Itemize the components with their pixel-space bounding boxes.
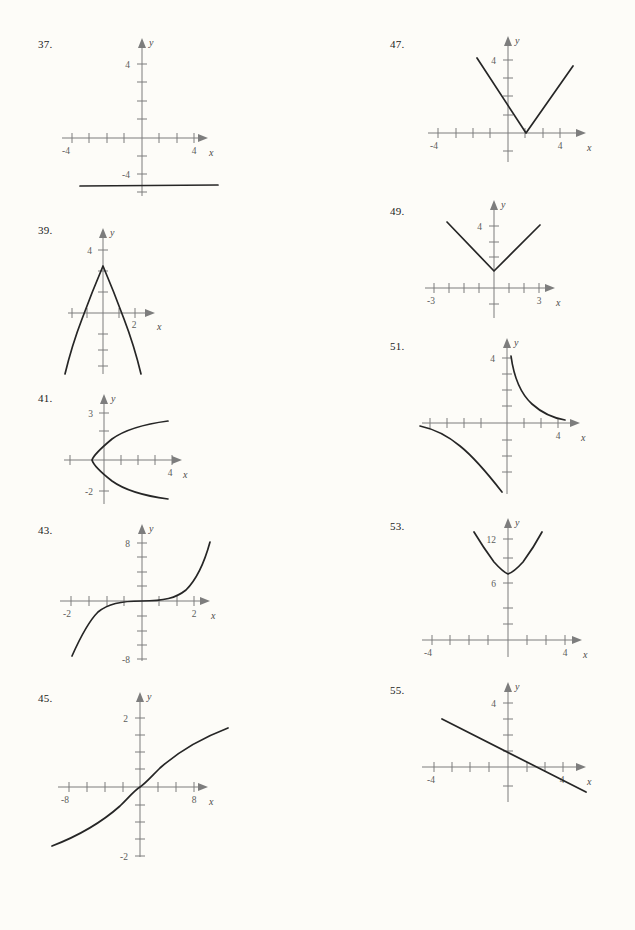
x-axis-name: x bbox=[586, 142, 592, 153]
x-axis-name: x bbox=[580, 432, 586, 443]
x-axis-arrowhead bbox=[576, 763, 586, 771]
y-axis-arrowhead bbox=[504, 36, 512, 46]
y-tick-label-neg: -4 bbox=[122, 170, 130, 180]
y-axis-arrowhead bbox=[504, 682, 512, 692]
y-tick-label-pos: 3 bbox=[88, 409, 93, 419]
graph-43: 8 -8 -2 2 x y bbox=[20, 518, 230, 668]
y-axis-name: y bbox=[110, 393, 116, 404]
y-axis-name: y bbox=[500, 199, 506, 210]
y-axis-name: y bbox=[148, 523, 154, 534]
curve-decreasing-line bbox=[442, 719, 586, 792]
x-tick-label-pos: 8 bbox=[192, 795, 197, 805]
x-tick-label-pos: 4 bbox=[558, 141, 563, 151]
y-tick-label-pos: 4 bbox=[477, 222, 482, 232]
graph-45: 2 -2 -8 8 x y bbox=[20, 686, 230, 866]
x-axis-name: x bbox=[210, 610, 216, 621]
y-tick-label-pos: 4 bbox=[125, 60, 130, 70]
graph-47: 4 -4 4 x y bbox=[390, 26, 600, 166]
x-axis-name: x bbox=[582, 649, 588, 660]
x-tick-label-pos: 2 bbox=[132, 320, 137, 330]
x-axis-arrowhead bbox=[198, 783, 208, 791]
x-axis-arrowhead bbox=[576, 129, 586, 137]
graph-37: -4 4 4 -4 x y bbox=[20, 26, 250, 216]
x-tick-label-neg: -4 bbox=[427, 775, 435, 785]
graph-49: 4 -3 3 x y bbox=[390, 200, 590, 320]
x-tick-label-pos: 4 bbox=[556, 431, 561, 441]
curve-cubic bbox=[72, 542, 210, 656]
x-axis-arrowhead bbox=[545, 284, 555, 292]
curve-hyperbola-branch-upper bbox=[511, 356, 565, 420]
x-axis-arrowhead bbox=[198, 134, 208, 142]
x-tick-label-pos: 4 bbox=[168, 468, 173, 478]
x-tick-label-pos: 2 bbox=[192, 609, 197, 619]
x-axis-arrowhead bbox=[572, 636, 582, 644]
x-axis-name: x bbox=[182, 469, 188, 480]
x-tick-label-neg: -3 bbox=[427, 296, 435, 306]
curve-horizontal-line bbox=[80, 185, 218, 186]
y-axis-arrowhead bbox=[138, 524, 146, 534]
y-axis-name: y bbox=[514, 681, 520, 692]
y-tick-label-pos: 4 bbox=[490, 354, 495, 364]
y-axis-name: y bbox=[513, 337, 519, 348]
curve-absolute-value bbox=[477, 58, 573, 133]
x-axis-arrowhead bbox=[200, 597, 210, 605]
graph-53: 12 6 -4 4 x y bbox=[390, 514, 600, 664]
y-tick-label-top: 12 bbox=[487, 535, 497, 545]
x-tick-label-neg: -2 bbox=[63, 609, 71, 619]
x-axis-arrowhead bbox=[145, 309, 155, 317]
y-axis-name: y bbox=[514, 517, 520, 528]
x-axis-name: x bbox=[156, 321, 162, 332]
x-tick-label-neg: -4 bbox=[62, 146, 70, 156]
x-tick-label-neg: -8 bbox=[61, 795, 69, 805]
y-axis-name: y bbox=[148, 37, 154, 48]
graph-39: 4 2 x y bbox=[20, 222, 220, 382]
y-axis-arrowhead bbox=[136, 692, 144, 702]
graph-55: 4 -4 4 x y bbox=[390, 676, 605, 816]
x-axis-arrowhead bbox=[570, 419, 580, 427]
y-axis-arrowhead bbox=[100, 394, 108, 404]
x-tick-label-pos: 3 bbox=[537, 296, 542, 306]
y-tick-label-mid: 6 bbox=[491, 579, 496, 589]
x-axis-arrowhead bbox=[172, 456, 182, 464]
y-tick-label-neg: -8 bbox=[122, 655, 130, 665]
graph-41: 3 -2 4 x y bbox=[20, 388, 220, 513]
x-tick-label-pos: 4 bbox=[192, 146, 197, 156]
curve-hyperbola-branch-lower bbox=[420, 426, 502, 492]
y-axis-arrowhead bbox=[503, 338, 511, 348]
y-tick-label-pos: 2 bbox=[123, 714, 128, 724]
graph-51: 4 4 x y bbox=[390, 332, 600, 502]
y-tick-label-neg: -2 bbox=[120, 852, 128, 862]
y-axis-arrowhead bbox=[138, 38, 146, 48]
y-axis-arrowhead bbox=[99, 228, 107, 238]
y-tick-label-pos: 8 bbox=[125, 539, 130, 549]
y-axis-arrowhead bbox=[490, 200, 498, 210]
x-axis-name: x bbox=[555, 297, 561, 308]
y-tick-label-pos: 4 bbox=[491, 699, 496, 709]
x-axis-name: x bbox=[208, 796, 214, 807]
x-tick-label-neg: -4 bbox=[430, 141, 438, 151]
y-axis-name: y bbox=[109, 227, 115, 238]
x-tick-label-pos: 4 bbox=[563, 648, 568, 658]
y-tick-label-pos: 4 bbox=[87, 246, 92, 256]
answer-key-page: 37. bbox=[0, 0, 635, 930]
x-axis-name: x bbox=[208, 147, 214, 158]
y-axis-arrowhead bbox=[504, 518, 512, 528]
y-axis-name: y bbox=[146, 691, 152, 702]
x-axis-name: x bbox=[586, 776, 592, 787]
y-tick-label-pos: 4 bbox=[491, 56, 496, 66]
x-tick-label-neg: -4 bbox=[424, 648, 432, 658]
y-tick-label-neg: -2 bbox=[85, 487, 93, 497]
y-axis-name: y bbox=[514, 35, 520, 46]
